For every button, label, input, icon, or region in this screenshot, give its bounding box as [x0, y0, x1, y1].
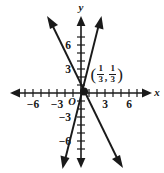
graph-svg: −6 −3 3 6 6 3 −3 −6 O x y [0, 0, 164, 173]
y-axis-label: y [77, 1, 84, 13]
x-axis-right-arrow-icon [142, 89, 152, 98]
y-tick-label--3: −3 [59, 111, 72, 123]
x-tick-label--6: −6 [27, 98, 40, 110]
line-1-upper-left-arrow-icon [47, 16, 58, 29]
y-tick-label--6: −6 [59, 135, 72, 147]
line-2-upper-right-arrow-icon [95, 16, 104, 30]
x-fraction-denominator: 3 [97, 75, 104, 84]
label-comma: , [105, 73, 108, 84]
y-tick-label-3: 3 [65, 63, 71, 75]
x-tick-label-3: 3 [102, 98, 108, 110]
y-axis-bottom-arrow-icon [77, 158, 86, 168]
y-fraction-denominator: 3 [109, 75, 116, 84]
x-coordinate-fraction: 1 3 [97, 64, 104, 84]
x-fraction-numerator: 1 [97, 64, 104, 73]
coordinate-plane-figure: −6 −3 3 6 6 3 −3 −6 O x y ( 1 3 , 1 3 ) [0, 0, 164, 173]
x-axis-left-arrow-icon [10, 89, 20, 98]
intersection-point-label: ( 1 3 , 1 3 ) [90, 64, 123, 84]
y-tick-label-6: 6 [65, 39, 71, 51]
intersection-point-dot [80, 88, 88, 96]
x-axis-label: x [153, 86, 160, 98]
line-2-lower-left-arrow-icon [61, 156, 70, 170]
y-axis-top-arrow-icon [77, 16, 86, 26]
label-open-paren: ( [91, 66, 97, 83]
x-tick-label-6: 6 [126, 98, 132, 110]
y-fraction-numerator: 1 [109, 64, 116, 73]
line-1-lower-right-arrow-icon [112, 155, 123, 168]
x-tick-label--3: −3 [51, 98, 64, 110]
y-coordinate-fraction: 1 3 [109, 64, 116, 84]
label-close-paren: ) [117, 66, 123, 83]
origin-label: O [68, 96, 76, 107]
